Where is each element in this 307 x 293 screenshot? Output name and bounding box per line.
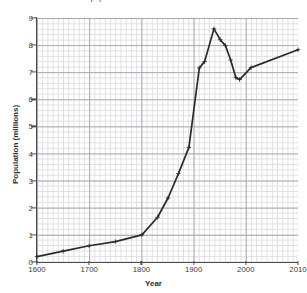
data-point-marker [113,239,117,243]
population-line-chart: Growth of London's population 0123456789… [0,0,307,293]
data-point-marker [296,48,300,52]
y-axis-label: Population (millions) [11,90,20,200]
data-point-marker [35,254,39,258]
data-point-marker [228,58,232,62]
data-series-layer [0,0,307,293]
series-line [37,29,298,257]
data-point-marker [61,249,65,253]
x-axis-label: Year [0,279,307,288]
data-point-marker [87,244,91,248]
data-point-marker [187,145,191,149]
